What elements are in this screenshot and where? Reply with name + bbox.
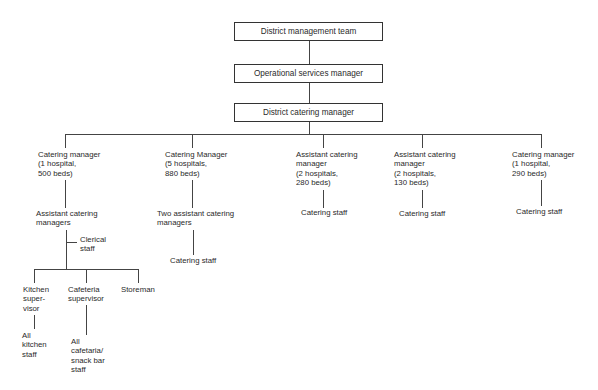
catering-manager-500-beds: Catering manager (1 hospital, 500 beds) bbox=[38, 150, 100, 178]
operational-services-manager-box: Operational services manager bbox=[234, 64, 383, 83]
catering-manager-290-beds: Catering manager (1 hospital, 290 beds) bbox=[512, 150, 574, 178]
connector-line bbox=[192, 180, 193, 208]
catering-staff: Catering staff bbox=[516, 207, 562, 216]
catering-manager-880-beds: Catering Manager (5 hospitals, 880 beds) bbox=[165, 150, 227, 178]
connector-line bbox=[34, 315, 35, 329]
connector-line bbox=[86, 305, 87, 335]
connector-line bbox=[193, 230, 194, 255]
assistant-catering-manager-280-beds: Assistant catering manager (2 hospitals,… bbox=[296, 150, 358, 188]
kitchen-supervisor: Kitchen super- visor bbox=[23, 285, 49, 313]
connector-line bbox=[309, 122, 310, 134]
cafeteria-supervisor: Cafeteria supervisor bbox=[68, 285, 104, 304]
catering-staff: Catering staff bbox=[170, 256, 216, 265]
connector-line bbox=[422, 190, 423, 208]
district-catering-manager-box: District catering manager bbox=[234, 103, 383, 122]
connector-line bbox=[541, 134, 542, 148]
assistant-catering-managers: Assistant catering managers bbox=[36, 209, 98, 228]
catering-staff: Catering staff bbox=[399, 209, 445, 218]
connector-line bbox=[309, 83, 310, 103]
connector-line bbox=[65, 180, 66, 208]
clerical-staff: Clerical staff bbox=[80, 235, 106, 254]
connector-line bbox=[192, 134, 193, 148]
connector-line bbox=[138, 269, 139, 283]
connector-line bbox=[34, 269, 35, 283]
connector-line bbox=[422, 134, 423, 148]
all-cafeteria-staff: All cafetaria/ snack bar staff bbox=[71, 337, 105, 375]
connector-line bbox=[66, 230, 67, 269]
connector-line bbox=[65, 134, 66, 148]
connector-line bbox=[541, 180, 542, 206]
storeman: Storeman bbox=[121, 285, 155, 294]
connector-line bbox=[86, 269, 87, 283]
branch-bus-line bbox=[65, 134, 541, 135]
connector-line bbox=[66, 242, 77, 243]
catering-staff: Catering staff bbox=[301, 208, 347, 217]
connector-line bbox=[309, 41, 310, 64]
two-assistant-catering-managers: Two assistant catering managers bbox=[157, 209, 234, 228]
connector-line bbox=[323, 134, 324, 148]
all-kitchen-staff: All kitchen staff bbox=[22, 331, 47, 359]
assistant-catering-manager-130-beds: Assistant catering manager (2 hospitals,… bbox=[394, 150, 456, 188]
connector-line bbox=[323, 190, 324, 208]
district-management-team-box: District management team bbox=[234, 22, 383, 41]
